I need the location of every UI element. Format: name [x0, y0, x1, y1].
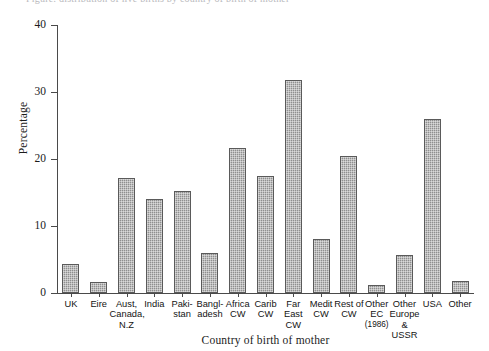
x-axis-tick — [405, 293, 406, 297]
bar — [201, 253, 218, 293]
x-axis-tick — [321, 293, 322, 297]
y-axis-label: Percentage — [17, 58, 29, 198]
x-axis-tick — [127, 293, 128, 297]
bar — [368, 285, 385, 293]
y-axis-tick-label: 10 — [16, 219, 46, 231]
x-axis-tick — [266, 293, 267, 297]
bar — [452, 281, 469, 293]
bar — [62, 264, 79, 293]
x-axis-tick — [349, 293, 350, 297]
y-axis-tick-label: 20 — [16, 152, 46, 164]
x-axis-tick — [432, 293, 433, 297]
x-axis-tick — [99, 293, 100, 297]
bar — [424, 119, 441, 293]
y-axis-tick — [51, 159, 58, 160]
x-axis-category-label-line: N.Z — [110, 320, 144, 330]
y-axis-tick — [51, 92, 58, 93]
x-axis-category-label-line: Other — [443, 299, 477, 309]
y-axis-tick-label: 30 — [16, 85, 46, 97]
y-axis-tick-label: 0 — [16, 286, 46, 298]
x-axis-tick — [238, 293, 239, 297]
x-axis-tick — [210, 293, 211, 297]
y-axis-tick-label: 40 — [16, 18, 46, 30]
y-axis-tick — [51, 226, 58, 227]
bar — [396, 255, 413, 293]
y-axis-tick — [51, 293, 58, 294]
x-axis-tick — [377, 293, 378, 297]
x-axis-label: Country of birth of mother — [57, 334, 474, 346]
bar — [118, 178, 135, 293]
x-axis-category-label: Other — [443, 299, 477, 309]
x-axis-tick — [182, 293, 183, 297]
bar — [146, 199, 163, 293]
x-axis-category-label-line: Europe — [388, 309, 422, 319]
bar — [257, 176, 274, 293]
bar — [340, 156, 357, 293]
bar — [229, 148, 246, 293]
x-axis-category-label-line: Canada, — [110, 309, 144, 319]
bar — [90, 282, 107, 293]
x-axis-tick — [154, 293, 155, 297]
x-axis-tick — [460, 293, 461, 297]
bar — [174, 191, 191, 293]
bar — [313, 239, 330, 293]
bar — [285, 80, 302, 293]
bar-chart-figure: Percentage 010203040 UKEireAust,Canada,N… — [0, 0, 489, 351]
x-axis-category-label-line: CW — [276, 320, 310, 330]
y-axis-tick — [51, 25, 58, 26]
x-axis-tick — [71, 293, 72, 297]
x-axis-tick — [293, 293, 294, 297]
